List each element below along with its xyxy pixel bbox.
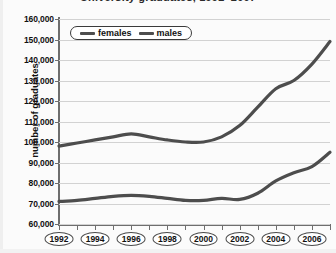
plot-area [59, 19, 330, 224]
x-tick-mark [131, 225, 132, 230]
chart-legend: females males [70, 26, 192, 40]
legend-label-males: males [157, 28, 183, 38]
x-tick-mark [312, 225, 313, 230]
x-tick-mark [222, 225, 223, 230]
x-tick-mark [185, 225, 186, 230]
y-tick-label: 80,000 [2, 178, 54, 188]
y-tick-label: 140,000 [2, 55, 54, 65]
series-lines [59, 19, 330, 224]
x-tick-label: 1996 [117, 232, 146, 246]
x-tick-mark [149, 225, 150, 230]
x-tick-mark [330, 225, 331, 230]
legend-swatch-males [139, 32, 154, 35]
x-tick-mark [95, 225, 96, 230]
page-edge-bottom [0, 249, 336, 253]
gridline [59, 224, 330, 225]
legend-item-males: males [139, 28, 183, 38]
y-tick-label: 130,000 [2, 76, 54, 86]
x-tick-mark [113, 225, 114, 230]
series-line-males [59, 152, 330, 201]
x-tick-mark [59, 225, 60, 230]
y-tick-label: 110,000 [2, 117, 54, 127]
chart-title: University graduates, 1992–2007 [0, 0, 336, 3]
legend-item-females: females [80, 28, 132, 38]
x-tick-mark [258, 225, 259, 230]
y-tick-label: 70,000 [2, 199, 54, 209]
x-tick-label: 2004 [261, 232, 290, 246]
x-tick-mark [167, 225, 168, 230]
x-tick-label: 2002 [225, 232, 254, 246]
x-tick-label: 2000 [189, 232, 218, 246]
y-tick-label: 120,000 [2, 96, 54, 106]
x-tick-label: 2006 [297, 232, 326, 246]
x-tick-mark [276, 225, 277, 230]
x-tick-label: 1998 [153, 232, 182, 246]
y-tick-label: 150,000 [2, 35, 54, 45]
chart-canvas: University graduates, 1992–2007 number o… [0, 0, 336, 253]
legend-label-females: females [98, 28, 132, 38]
legend-swatch-females [80, 32, 95, 35]
y-axis-title: number of graduates [29, 51, 40, 171]
series-line-females [59, 42, 330, 147]
y-tick-label: 90,000 [2, 158, 54, 168]
x-tick-label: 1994 [81, 232, 110, 246]
x-tick-label: 1992 [45, 232, 74, 246]
y-tick-label: 160,000 [2, 14, 54, 24]
x-tick-mark [240, 225, 241, 230]
x-tick-mark [294, 225, 295, 230]
y-tick-label: 100,000 [2, 137, 54, 147]
y-tick-label: 60,000 [2, 219, 54, 229]
x-tick-mark [204, 225, 205, 230]
x-tick-mark [77, 225, 78, 230]
